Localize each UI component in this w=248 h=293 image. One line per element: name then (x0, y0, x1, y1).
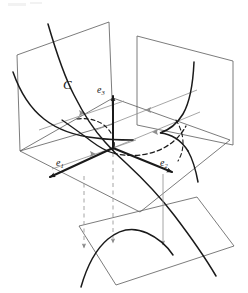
ray-arrow-right-lower (145, 107, 151, 113)
basis-label-e3-subscript: 3 (101, 89, 104, 96)
right-vertical-plane (137, 36, 233, 145)
basis-label-e2: e2 (160, 158, 168, 168)
left-plane-projection-curve (13, 72, 133, 140)
ray-to-left-plane-upper (39, 101, 124, 130)
curve-label-C: C (63, 78, 72, 91)
drop-lines-group (84, 153, 163, 248)
geometry-figure: C e1 e2 e3 (0, 0, 248, 293)
basis-frame-group (50, 96, 172, 177)
basis-label-e1-subscript: 1 (60, 162, 63, 169)
bottom-plane (79, 197, 234, 285)
space-curve-C (48, 24, 216, 276)
basis-label-e1: e1 (56, 158, 64, 168)
bottom-plane-projection-curve (81, 230, 173, 287)
basis-label-e2-subscript: 2 (164, 162, 167, 169)
diagram-canvas (0, 0, 248, 293)
basis-label-e3: e3 (97, 85, 105, 95)
ray-arrow-right-upper (152, 129, 158, 135)
horizontal-plane-projection-dashed (113, 126, 186, 155)
